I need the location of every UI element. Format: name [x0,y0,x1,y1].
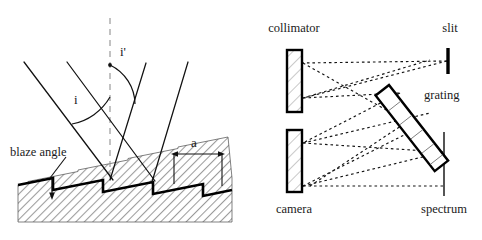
slit-optic: slit [442,21,458,74]
angle-i-annotation: i [72,92,110,124]
collimator-lens-body [287,50,302,112]
grating-label: grating [424,88,460,102]
figure-root: blaze angle i [0,0,482,240]
left-panel-blazed-grating: blaze angle i [10,18,232,222]
beam-cross-4 [303,60,430,98]
optical-beam-paths [303,60,447,186]
spectrum-label: spectrum [421,202,467,216]
blaze-angle-label: blaze angle [10,145,67,159]
slit-label: slit [442,21,458,35]
beam-grating-to-camera-2 [303,128,418,186]
camera-label: camera [276,202,313,216]
angle-i-label: i [74,92,78,107]
beam-camera-to-spectrum-2 [303,152,443,186]
collimator-label: collimator [268,21,320,35]
camera-lens-body [287,130,302,192]
optics-figure: blaze angle i [0,0,482,240]
right-panel-spectrograph: collimator camera slit spectrum [268,21,467,216]
camera-optic: camera [276,130,313,216]
angle-i-prime-annotation: i' [108,44,135,104]
groove-spacing-label: a [191,135,197,150]
beam-cross-3 [310,120,410,186]
angle-i-prime-label: i' [120,44,126,59]
collimator-optic: collimator [268,21,320,112]
incident-ray-1 [24,62,113,180]
angle-vertex-dot [108,63,112,67]
